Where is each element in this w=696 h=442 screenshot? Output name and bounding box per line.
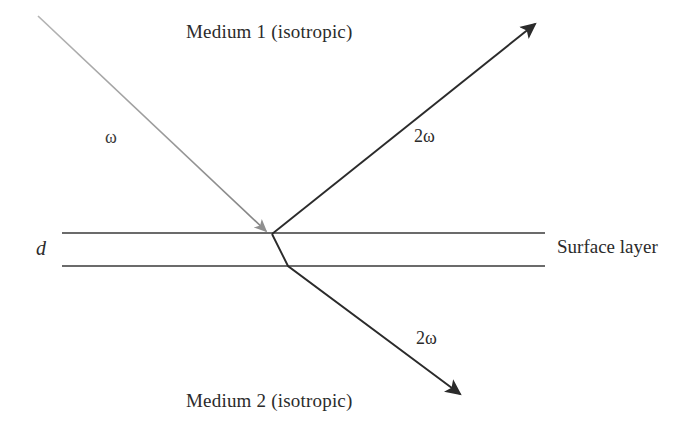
shg-surface-layer-diagram: Medium 1 (isotropic) Medium 2 (isotropic… <box>0 0 696 442</box>
thickness-label-d: d <box>36 237 46 260</box>
reflected-2omega-label: 2ω <box>414 126 435 147</box>
transmitted-2omega-label: 2ω <box>416 328 437 349</box>
diagram-canvas <box>0 0 696 442</box>
incident-omega-ray <box>38 16 266 231</box>
medium-1-label: Medium 1 (isotropic) <box>186 21 353 43</box>
medium-2-label: Medium 2 (isotropic) <box>186 390 353 412</box>
incident-omega-label: ω <box>105 127 117 148</box>
surface-layer-label: Surface layer <box>557 236 658 258</box>
reflected-2omega-ray <box>272 24 535 234</box>
transmitted-2omega-ray <box>272 234 460 394</box>
